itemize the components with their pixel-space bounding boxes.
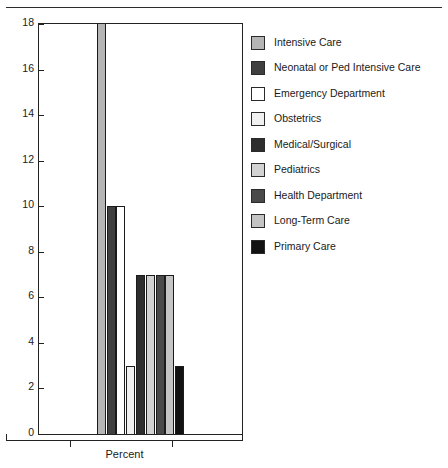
y-axis-tick-label: 14 — [22, 108, 34, 119]
x-axis-tick-mark — [172, 441, 173, 447]
y-axis-tick-label: 18 — [22, 17, 34, 28]
x-axis-left-cap — [6, 434, 7, 441]
legend-item: Medical/Surgical — [251, 132, 446, 158]
bar — [146, 275, 155, 434]
legend-item: Primary Care — [251, 234, 446, 260]
bar — [136, 275, 145, 434]
legend-swatch — [251, 61, 265, 75]
x-axis-line — [6, 440, 243, 441]
legend-item-label: Intensive Care — [274, 37, 342, 49]
legend-item-label: Neonatal or Ped Intensive Care — [274, 62, 421, 74]
bar — [97, 24, 106, 434]
y-axis-tick-label: 4 — [28, 336, 34, 347]
y-axis-tick-label: 0 — [28, 427, 34, 438]
bar — [126, 366, 135, 434]
legend-item-label: Long-Term Care — [274, 215, 350, 227]
legend-item-label: Primary Care — [274, 241, 336, 253]
bar — [175, 366, 184, 434]
legend-item-label: Obstetrics — [274, 113, 321, 125]
legend-swatch — [251, 138, 265, 152]
bar-series — [39, 24, 242, 434]
legend-item-label: Health Department — [274, 190, 362, 202]
y-axis-tick-label: 2 — [28, 381, 34, 392]
bar — [107, 206, 116, 434]
legend-item: Health Department — [251, 183, 446, 209]
legend-item: Obstetrics — [251, 107, 446, 133]
bar — [116, 206, 125, 434]
y-axis-tick-label: 10 — [22, 199, 34, 210]
plot-area — [39, 24, 242, 434]
x-axis-tick-mark — [70, 441, 71, 447]
y-axis-tick-label: 6 — [28, 290, 34, 301]
x-axis-right-cap — [242, 434, 243, 441]
legend-swatch — [251, 36, 265, 50]
bar-chart-figure: 181614121086420 Percent Intensive CareNe… — [0, 0, 448, 468]
legend-item: Pediatrics — [251, 158, 446, 184]
legend-swatch — [251, 112, 265, 126]
legend-item: Neonatal or Ped Intensive Care — [251, 56, 446, 82]
legend-item-label: Emergency Department — [274, 88, 385, 100]
legend-item: Long-Term Care — [251, 209, 446, 235]
legend-item-label: Pediatrics — [274, 164, 320, 176]
legend-swatch — [251, 189, 265, 203]
bar — [156, 275, 165, 434]
legend-swatch — [251, 240, 265, 254]
legend-swatch — [251, 87, 265, 101]
chart-legend: Intensive CareNeonatal or Ped Intensive … — [251, 30, 446, 260]
legend-item-label: Medical/Surgical — [274, 139, 351, 151]
legend-swatch — [251, 163, 265, 177]
y-axis-tick-label: 8 — [28, 245, 34, 256]
y-axis-tick-mark — [39, 434, 44, 435]
legend-item: Emergency Department — [251, 81, 446, 107]
y-axis-tick-label: 12 — [22, 154, 34, 165]
bar — [165, 275, 174, 434]
x-axis-label: Percent — [0, 448, 249, 460]
y-axis-tick-label: 16 — [22, 63, 34, 74]
legend-swatch — [251, 214, 265, 228]
legend-item: Intensive Care — [251, 30, 446, 56]
